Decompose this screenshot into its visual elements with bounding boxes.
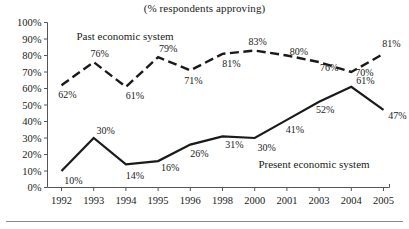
- value-label: 76%: [91, 48, 109, 59]
- y-tick-label: 50%: [22, 100, 42, 111]
- value-label: 30%: [258, 142, 276, 153]
- value-label: 30%: [97, 125, 115, 136]
- value-label: 79%: [159, 43, 177, 54]
- value-label: 14%: [126, 170, 144, 181]
- x-tick-label: 2003: [309, 195, 330, 206]
- value-label: 80%: [290, 46, 308, 57]
- value-label: 41%: [286, 124, 304, 135]
- y-tick-label: 0%: [28, 182, 42, 193]
- x-tick-label: 2000: [244, 195, 265, 206]
- x-axis: 1992199319941995199619982000200120032004…: [48, 184, 395, 206]
- y-tick-label: 100%: [17, 17, 42, 28]
- x-tick-label: 1993: [83, 195, 104, 206]
- value-label: 62%: [58, 89, 76, 100]
- value-label: 10%: [64, 175, 82, 186]
- x-tick-label: 2001: [276, 195, 297, 206]
- x-tick-label: 1995: [148, 195, 169, 206]
- x-tick-label: 2005: [373, 195, 394, 206]
- y-tick-label: 40%: [22, 116, 42, 127]
- chart-figure: (% respondents approving) 0%10%20%30%40%…: [0, 0, 409, 229]
- y-tick-label: 90%: [22, 34, 42, 45]
- footer-divider: [6, 221, 403, 222]
- y-tick-label: 20%: [22, 149, 42, 160]
- value-label: 81%: [222, 58, 240, 69]
- value-label: 83%: [249, 36, 267, 47]
- x-tick-label: 1998: [212, 195, 233, 206]
- series-annotation-2: Present economic system: [258, 158, 370, 170]
- y-tick-label: 30%: [22, 133, 42, 144]
- series-annotation-1: Past economic system: [76, 30, 174, 42]
- value-label: 71%: [184, 75, 202, 86]
- x-tick-label: 1996: [180, 195, 201, 206]
- chart-plot-area: 0%10%20%30%40%50%60%70%80%90%100% 199219…: [0, 0, 409, 229]
- value-label: 47%: [388, 110, 406, 121]
- value-label: 16%: [161, 162, 179, 173]
- x-tick-label: 1992: [51, 195, 72, 206]
- value-label: 26%: [190, 148, 208, 159]
- y-tick-label: 60%: [22, 83, 42, 94]
- y-axis: 0%10%20%30%40%50%60%70%80%90%100%: [17, 17, 48, 193]
- value-label: 61%: [356, 75, 374, 86]
- series-annotations: Past economic systemPresent economic sys…: [76, 30, 370, 170]
- value-label: 52%: [316, 104, 334, 115]
- value-label: 61%: [126, 90, 144, 101]
- value-label: 81%: [382, 38, 400, 49]
- y-tick-label: 70%: [22, 67, 42, 78]
- y-tick-label: 10%: [22, 166, 42, 177]
- value-label: 76%: [320, 62, 338, 73]
- x-tick-label: 1994: [115, 195, 137, 206]
- x-tick-label: 2004: [341, 195, 363, 206]
- value-label: 31%: [225, 139, 243, 150]
- y-tick-label: 80%: [22, 50, 42, 61]
